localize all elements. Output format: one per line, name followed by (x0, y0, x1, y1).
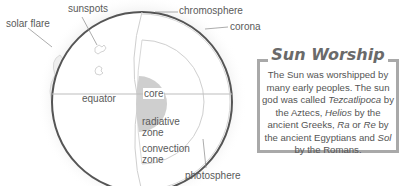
text-part: by the Romans. (294, 144, 361, 155)
solar-flare-leader (28, 28, 52, 47)
name-tezcatlipoca: Tezcatlipoca (328, 94, 381, 105)
name-ra: Ra (337, 119, 349, 130)
label-sunspots: sunspots (68, 3, 108, 14)
label-radiative-line1: radiative (142, 116, 180, 127)
label-core: core (143, 88, 164, 99)
label-convection-zone: convection zone (142, 143, 190, 165)
label-corona: corona (230, 21, 261, 32)
name-re: Re (363, 119, 375, 130)
sun-worship-text: The Sun was worshipped by many early peo… (262, 69, 394, 157)
label-radiative-zone: radiative zone (142, 116, 180, 138)
label-convection-line1: convection (142, 143, 190, 154)
label-equator: equator (82, 93, 116, 104)
name-helios: Helios (325, 107, 352, 118)
label-photosphere: photosphere (185, 170, 241, 181)
name-sol: Sol (378, 132, 392, 143)
label-radiative-line2: zone (142, 127, 164, 138)
label-solar-flare: solar flare (6, 18, 50, 29)
text-part: or (350, 119, 364, 130)
sun-worship-title: Sun Worship (268, 44, 388, 66)
label-convection-line2: zone (142, 154, 164, 165)
label-chromosphere: chromosphere (179, 5, 243, 16)
